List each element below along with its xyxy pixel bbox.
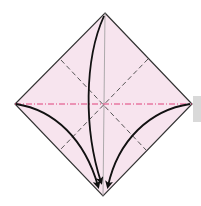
side-tab: [193, 96, 201, 122]
origami-diagram: [0, 0, 201, 206]
